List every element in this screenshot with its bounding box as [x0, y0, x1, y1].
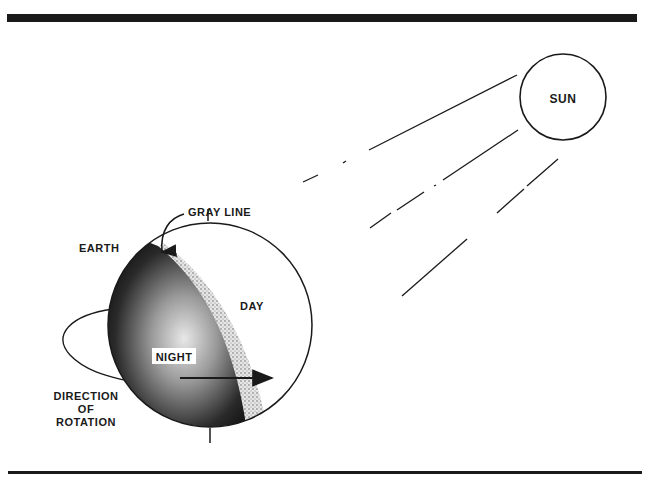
bottom-rule	[8, 471, 642, 474]
direction-label-line3: ROTATION	[56, 416, 116, 428]
night-label: NIGHT	[156, 351, 193, 363]
earth-label: EARTH	[79, 242, 119, 254]
night-label-box: NIGHT	[152, 348, 196, 364]
sun-rays	[303, 75, 558, 296]
direction-label-line1: DIRECTION	[54, 390, 119, 402]
diagram-canvas: SUN GRAY LINE EARTH	[0, 0, 650, 485]
sun: SUN	[520, 54, 606, 140]
sun-label: SUN	[550, 92, 577, 106]
day-label: DAY	[240, 300, 264, 312]
top-rule	[7, 14, 637, 22]
gray-line-label: GRAY LINE	[188, 206, 251, 218]
direction-label-line2: OF	[78, 403, 94, 415]
